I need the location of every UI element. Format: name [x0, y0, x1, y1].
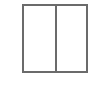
left-pane: [24, 6, 55, 71]
icon-canvas: [0, 0, 96, 93]
right-pane: [57, 6, 86, 71]
split-columns-icon[interactable]: [22, 4, 88, 73]
